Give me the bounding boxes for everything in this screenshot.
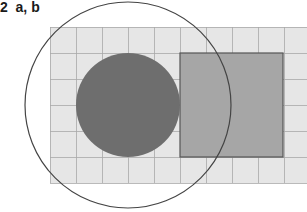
diagram-canvas [0,0,307,212]
filled-circle [76,53,180,157]
